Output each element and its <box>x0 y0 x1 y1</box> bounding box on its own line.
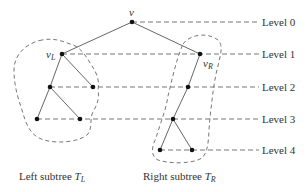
node-L2a <box>48 85 53 90</box>
node-L2b <box>91 85 96 90</box>
level-3-label: Level 3 <box>262 113 296 125</box>
node-R4b <box>190 148 195 153</box>
level-1-label: Level 1 <box>262 48 295 60</box>
edge-vL-L2b <box>62 54 93 87</box>
edge-L2a-L3b <box>50 87 80 119</box>
node-R3 <box>171 117 176 122</box>
level-0-label: Level 0 <box>262 16 296 28</box>
edge-L2a-L3a <box>37 87 50 119</box>
node-R4a <box>158 148 163 153</box>
level-2-label: Level 2 <box>262 81 295 93</box>
level-4-label: Level 4 <box>262 144 296 156</box>
root-label: v <box>129 6 134 18</box>
tree-nodes <box>35 20 203 153</box>
edge-R3-R4a <box>160 119 173 150</box>
node-vR <box>198 52 203 57</box>
node-L3b <box>78 117 83 122</box>
tree-diagram: v vL vR Level 0 Level 1 Level 2 Level 3 … <box>0 0 307 192</box>
left-subtree-outline <box>14 39 99 142</box>
node-v <box>130 20 135 25</box>
edge-R3-R4b <box>173 119 192 150</box>
node-R2 <box>186 85 191 90</box>
left-subtree-caption: Left subtree TL <box>19 170 86 184</box>
node-vL <box>60 52 65 57</box>
level-lines <box>37 22 259 150</box>
edge-v-vL <box>62 22 132 54</box>
right-subtree-caption: Right subtree TR <box>143 170 216 184</box>
edge-vR-R2 <box>188 54 200 87</box>
edge-R2-R3 <box>173 87 188 119</box>
node-L3a <box>35 117 40 122</box>
level-labels: Level 0 Level 1 Level 2 Level 3 Level 4 <box>262 16 296 156</box>
right-child-label: vR <box>203 57 213 71</box>
left-child-label: vL <box>46 48 56 62</box>
